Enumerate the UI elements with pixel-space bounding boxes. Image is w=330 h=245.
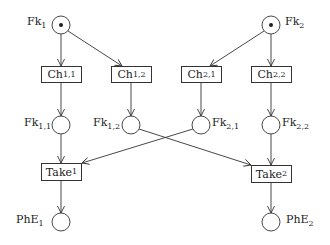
- token-fk2: [269, 23, 273, 27]
- label-fk11: Fk1,1: [24, 117, 51, 129]
- arc-fk1-ch12: [68, 31, 122, 66]
- label-fk12: Fk1,2: [93, 117, 120, 129]
- transition-ch22-base: Ch: [257, 68, 273, 81]
- transition-ch12-base: Ch: [117, 68, 133, 81]
- label-phe2-base: PhE: [286, 213, 309, 226]
- transition-take1: Take1: [41, 163, 82, 181]
- label-phe1-base: PhE: [16, 213, 39, 226]
- transition-ch11-base: Ch: [47, 68, 63, 81]
- label-phe1: PhE1: [16, 214, 44, 226]
- place-fk12: [122, 116, 140, 134]
- token-fk1: [59, 23, 63, 27]
- label-phe2: PhE2: [286, 214, 314, 226]
- place-fk11: [52, 116, 70, 134]
- transition-take1-base: Take: [46, 166, 72, 179]
- label-phe2-sub: 2: [309, 219, 314, 228]
- arc-fk12-take2: [139, 129, 251, 165]
- label-fk1-sub: 1: [41, 21, 46, 30]
- place-phe2: [262, 213, 280, 231]
- label-fk21-sub: 2,1: [226, 122, 239, 131]
- transition-take2-base: Take: [256, 168, 282, 181]
- arc-fk21-take1: [82, 129, 193, 163]
- label-fk2-sub: 2: [299, 21, 304, 30]
- transition-ch11: Ch1,1: [41, 66, 82, 83]
- label-fk2: Fk2: [285, 16, 304, 28]
- label-fk22-base: Fk: [282, 116, 296, 129]
- arc-fk2-ch21: [210, 31, 264, 66]
- transition-take2: Take2: [251, 165, 292, 183]
- label-fk12-sub: 1,2: [107, 122, 120, 131]
- transition-ch12: Ch1,2: [111, 66, 152, 83]
- label-fk1-base: Fk: [27, 15, 41, 28]
- label-fk1: Fk1: [27, 16, 46, 28]
- label-fk12-base: Fk: [93, 116, 107, 129]
- label-fk11-sub: 1,1: [38, 122, 51, 131]
- label-fk11-base: Fk: [24, 116, 38, 129]
- label-phe1-sub: 1: [39, 219, 44, 228]
- label-fk21-base: Fk: [212, 116, 226, 129]
- transition-ch21: Ch2,1: [181, 66, 222, 83]
- label-fk22-sub: 2,2: [296, 122, 309, 131]
- label-fk2-base: Fk: [285, 15, 299, 28]
- label-fk22: Fk2,2: [282, 117, 309, 129]
- place-fk21: [192, 116, 210, 134]
- label-fk21: Fk2,1: [212, 117, 239, 129]
- place-fk22: [262, 116, 280, 134]
- place-phe1: [52, 213, 70, 231]
- transition-ch21-base: Ch: [187, 68, 203, 81]
- transition-ch22: Ch2,2: [251, 66, 292, 83]
